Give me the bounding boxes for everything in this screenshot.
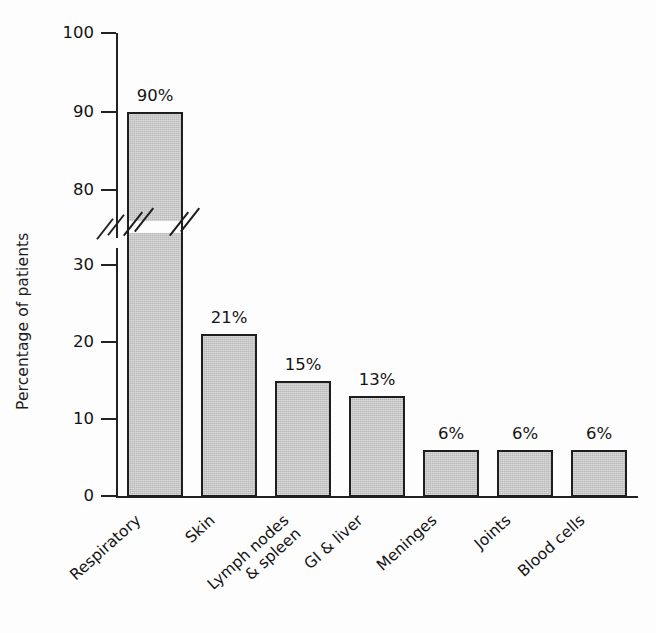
x-axis-category-label: Blood cells <box>515 512 589 581</box>
x-axis-category-label-line: Respiratory <box>66 511 144 584</box>
y-axis-tick-label: 30 <box>48 257 94 274</box>
x-axis-category-label-line: GI & liver <box>301 511 367 573</box>
y-axis-tick-label: 90 <box>48 104 94 121</box>
x-axis-category-label-line: Skin <box>182 511 219 546</box>
y-axis-tick <box>101 111 116 113</box>
y-axis-tick-label: 80 <box>48 182 94 199</box>
bar <box>423 450 479 497</box>
bar-value-label: 6% <box>411 426 491 443</box>
bar-value-label: 6% <box>485 426 565 443</box>
y-axis-tick-label: 0 <box>48 488 94 505</box>
y-axis-title: Percentage of patients <box>14 150 32 410</box>
y-axis-tick <box>101 418 116 420</box>
bar-value-label: 21% <box>189 310 269 327</box>
y-axis-tick-label: 10 <box>48 411 94 428</box>
y-axis-tick <box>101 495 116 497</box>
bar <box>571 450 627 497</box>
y-axis-tick <box>101 32 116 34</box>
x-axis-category-label: Meninges <box>374 512 441 575</box>
y-axis-tick <box>101 189 116 191</box>
y-axis-tick <box>101 341 116 343</box>
bar <box>127 112 183 498</box>
x-axis-category-label: GI & liver <box>301 512 367 574</box>
y-axis-line-upper <box>116 33 118 238</box>
x-axis-category-label: Respiratory <box>67 512 145 585</box>
x-axis-category-label-line: Blood cells <box>514 511 588 580</box>
bar <box>497 450 553 497</box>
bar <box>201 334 257 497</box>
x-axis-category-label-line: Joints <box>471 511 515 553</box>
bar <box>275 381 331 498</box>
bar-chart-figure: Percentage of patients 01020308090100 90… <box>0 0 656 633</box>
bar-value-label: 90% <box>115 88 195 105</box>
x-axis-category-label: Skin <box>183 512 219 547</box>
y-axis-line-lower <box>116 248 118 498</box>
x-axis-category-label: Joints <box>472 512 515 554</box>
y-axis-tick <box>101 264 116 266</box>
y-axis-tick-label: 20 <box>48 334 94 351</box>
x-axis-category-label-line: Meninges <box>373 511 440 574</box>
bar <box>349 396 405 497</box>
bar-value-label: 13% <box>337 372 417 389</box>
bar-value-label: 15% <box>263 357 343 374</box>
y-axis-tick-label: 100 <box>48 25 94 42</box>
x-axis-category-label: Lymph nodes& spleen <box>205 512 305 607</box>
bar-value-label: 6% <box>559 426 639 443</box>
